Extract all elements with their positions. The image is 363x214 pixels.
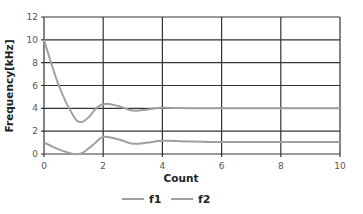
x-axis-title: Count: [164, 172, 199, 184]
x-tick-label: 4: [160, 161, 166, 171]
x-tick-label: 2: [100, 161, 106, 171]
data-series: [44, 40, 340, 155]
y-tick-label: 12: [27, 12, 38, 22]
legend-label-f1: f1: [149, 193, 161, 206]
grid-lines: [41, 17, 340, 157]
y-axis-ticks: 024681012: [27, 12, 39, 159]
y-tick-label: 6: [32, 81, 38, 91]
line-chart: 024681012 0246810 Frequency[kHz] Count f…: [0, 0, 363, 214]
y-axis-title: Frequency[kHz]: [3, 40, 15, 133]
series-f1-line: [44, 40, 340, 122]
x-tick-label: 0: [41, 161, 47, 171]
x-tick-label: 6: [219, 161, 225, 171]
legend: f1 f2: [122, 193, 210, 206]
x-tick-label: 10: [334, 161, 346, 171]
y-tick-label: 8: [32, 58, 38, 68]
x-axis-ticks: 0246810: [41, 161, 346, 171]
y-tick-label: 10: [27, 35, 39, 45]
y-tick-label: 2: [32, 126, 38, 136]
legend-label-f2: f2: [198, 193, 210, 206]
x-tick-label: 8: [278, 161, 284, 171]
series-f2-line: [44, 137, 340, 155]
y-tick-label: 0: [32, 149, 38, 159]
y-tick-label: 4: [32, 103, 38, 113]
